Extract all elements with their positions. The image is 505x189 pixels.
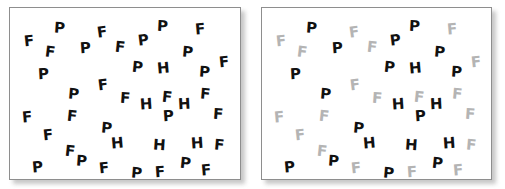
letter-f: F	[452, 163, 464, 179]
letter-p: P	[283, 160, 295, 176]
letter-p: P	[414, 109, 426, 125]
letter-p: P	[53, 21, 65, 37]
letter-f: F	[161, 90, 173, 106]
letter-h: H	[404, 138, 418, 154]
letter-p: P	[181, 45, 193, 61]
feature-search-panel: FPFPFFPFPPPPHPFPFFHFHFFFPFFPHHHFFPPFPFPF	[261, 7, 492, 180]
letter-f: F	[64, 144, 76, 160]
letter-p: P	[157, 19, 169, 35]
letter-p: P	[433, 45, 445, 61]
letter-f: F	[275, 34, 287, 50]
letter-f: F	[318, 109, 330, 125]
letter-f: F	[296, 44, 308, 60]
letter-f: F	[200, 163, 212, 179]
letter-f: F	[44, 44, 56, 60]
letter-h: H	[430, 97, 443, 113]
letter-h: H	[190, 136, 204, 152]
letter-f: F	[451, 87, 463, 103]
letter-h: H	[110, 135, 124, 151]
letter-p: P	[137, 32, 150, 48]
letter-p: P	[79, 41, 91, 57]
figure-stage: FPFPFFPFPPPPHPFPFFHFHFFFPFFPHHHFFPPFPFPF…	[0, 0, 505, 189]
letter-f: F	[406, 165, 417, 180]
letter-p: P	[198, 65, 210, 81]
letter-f: F	[470, 55, 482, 71]
letter-f: F	[119, 91, 130, 107]
letter-f: F	[465, 138, 477, 154]
letter-h: H	[391, 97, 405, 113]
letter-f: F	[218, 55, 230, 71]
letter-h: H	[156, 60, 170, 76]
letter-f: F	[212, 107, 223, 123]
letter-f: F	[154, 165, 165, 180]
letter-p: P	[75, 154, 87, 170]
letter-f: F	[23, 34, 35, 50]
letter-p: P	[331, 41, 343, 57]
letter-p: P	[305, 21, 317, 37]
letter-p: P	[67, 87, 79, 103]
letter-h: H	[362, 135, 376, 151]
letter-h: H	[139, 97, 153, 113]
letter-f: F	[316, 144, 328, 160]
letter-p: P	[389, 32, 402, 48]
letter-f: F	[349, 77, 361, 93]
letter-p: P	[382, 166, 394, 180]
conjunction-search-panel: FPFPFFPFPPPPHPFPFFHFHFFFPFFPHHHFFPPFPFPF	[9, 7, 241, 180]
letter-p: P	[319, 87, 331, 103]
letter-h: H	[152, 138, 166, 154]
letter-h: H	[442, 136, 456, 152]
letter-p: P	[38, 67, 50, 83]
letter-f: F	[98, 161, 110, 177]
letter-p: P	[131, 59, 144, 75]
letter-f: F	[464, 107, 475, 123]
letter-f: F	[350, 161, 362, 177]
letter-p: P	[431, 155, 444, 171]
letter-f: F	[194, 22, 206, 38]
letter-f: F	[413, 90, 425, 106]
letter-p: P	[162, 109, 174, 125]
letter-p: P	[179, 155, 192, 171]
letter-h: H	[178, 97, 191, 113]
letter-f: F	[199, 87, 211, 103]
letter-f: F	[294, 128, 306, 144]
letter-f: F	[446, 22, 458, 38]
letter-f: F	[96, 24, 108, 40]
letter-p: P	[130, 166, 142, 180]
letter-f: F	[273, 110, 285, 126]
letter-p: P	[327, 154, 339, 170]
letter-f: F	[21, 110, 33, 126]
letter-f: F	[66, 109, 78, 125]
letter-f: F	[213, 138, 225, 154]
letter-f: F	[42, 128, 54, 144]
letter-p: P	[290, 67, 302, 83]
letter-f: F	[348, 24, 360, 40]
letter-h: H	[408, 60, 422, 76]
letter-f: F	[97, 77, 109, 93]
letter-f: F	[366, 40, 378, 56]
letter-p: P	[383, 59, 396, 75]
letter-f: F	[114, 40, 126, 56]
letter-p: P	[31, 160, 43, 176]
letter-f: F	[371, 91, 382, 107]
letter-p: P	[409, 19, 421, 35]
letter-p: P	[450, 65, 462, 81]
